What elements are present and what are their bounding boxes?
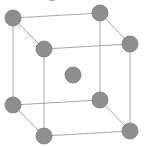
edge-front-top <box>44 44 130 49</box>
atom-front-bottom-left <box>36 128 52 144</box>
edge-back-top <box>13 13 100 18</box>
atoms <box>5 5 138 144</box>
atom-front-top-right <box>122 36 138 52</box>
edge-back-bottom <box>13 100 100 105</box>
atom-back-bottom-left <box>5 97 21 113</box>
partial-atom-cropped <box>45 0 59 1</box>
atom-back-bottom-right <box>92 92 108 108</box>
atom-front-top-left <box>36 41 52 57</box>
atom-back-top-left <box>5 10 21 26</box>
bcc-unit-cell-diagram <box>0 0 145 147</box>
atom-front-bottom-right <box>122 123 138 139</box>
atom-back-top-right <box>92 5 108 21</box>
atom-body-center <box>65 67 81 83</box>
edge-front-bottom <box>44 131 130 136</box>
